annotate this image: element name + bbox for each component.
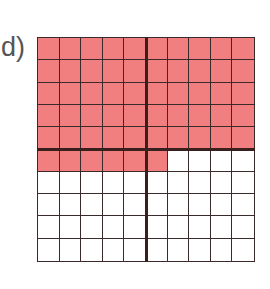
shaded-cell xyxy=(124,149,146,171)
part-label: d) xyxy=(1,32,25,63)
empty-cell xyxy=(146,172,168,194)
empty-cell xyxy=(211,239,233,261)
empty-cell xyxy=(211,149,233,171)
shaded-cell xyxy=(168,83,190,105)
empty-cell xyxy=(189,194,211,216)
shaded-cell xyxy=(232,105,254,127)
empty-cell xyxy=(146,239,168,261)
shaded-cell xyxy=(81,38,103,60)
shaded-cell xyxy=(189,105,211,127)
shaded-cell xyxy=(168,38,190,60)
empty-cell xyxy=(81,239,103,261)
shaded-cell xyxy=(211,105,233,127)
shaded-cell xyxy=(60,60,82,82)
empty-cell xyxy=(124,216,146,238)
empty-cell xyxy=(60,216,82,238)
shaded-cell xyxy=(232,127,254,149)
empty-cell xyxy=(124,239,146,261)
shaded-cell xyxy=(189,60,211,82)
empty-cell xyxy=(168,216,190,238)
empty-cell xyxy=(189,239,211,261)
shaded-cell xyxy=(211,127,233,149)
shaded-cell xyxy=(103,83,125,105)
empty-cell xyxy=(124,194,146,216)
shaded-cell xyxy=(168,105,190,127)
shaded-cell xyxy=(38,38,60,60)
shaded-cell xyxy=(81,60,103,82)
empty-cell xyxy=(232,239,254,261)
shaded-cell xyxy=(38,83,60,105)
horizontal-divider xyxy=(37,148,255,151)
empty-cell xyxy=(60,172,82,194)
empty-cell xyxy=(81,216,103,238)
shaded-cell xyxy=(124,105,146,127)
shaded-cell xyxy=(60,105,82,127)
empty-cell xyxy=(60,239,82,261)
shaded-cell xyxy=(124,60,146,82)
empty-cell xyxy=(38,172,60,194)
shaded-cell xyxy=(81,83,103,105)
empty-cell xyxy=(124,172,146,194)
shaded-cell xyxy=(124,127,146,149)
shaded-cell xyxy=(81,105,103,127)
empty-cell xyxy=(103,239,125,261)
shaded-cell xyxy=(232,83,254,105)
shaded-cell xyxy=(146,127,168,149)
shaded-cell xyxy=(38,127,60,149)
shaded-cell xyxy=(81,127,103,149)
shaded-cell xyxy=(103,149,125,171)
shaded-cell xyxy=(189,127,211,149)
empty-cell xyxy=(146,194,168,216)
shaded-cell xyxy=(38,105,60,127)
empty-cell xyxy=(232,172,254,194)
empty-cell xyxy=(103,194,125,216)
empty-cell xyxy=(38,194,60,216)
shaded-cell xyxy=(60,127,82,149)
empty-cell xyxy=(168,194,190,216)
shaded-cell xyxy=(146,60,168,82)
empty-cell xyxy=(103,172,125,194)
shaded-cell xyxy=(146,38,168,60)
empty-cell xyxy=(211,194,233,216)
shaded-cell xyxy=(103,60,125,82)
shaded-cell xyxy=(189,83,211,105)
empty-cell xyxy=(189,216,211,238)
empty-cell xyxy=(146,216,168,238)
empty-cell xyxy=(168,239,190,261)
shaded-cell xyxy=(103,127,125,149)
shaded-cell xyxy=(103,105,125,127)
shaded-cell xyxy=(189,38,211,60)
shaded-cell xyxy=(60,149,82,171)
empty-cell xyxy=(38,239,60,261)
empty-cell xyxy=(38,216,60,238)
empty-cell xyxy=(81,172,103,194)
empty-cell xyxy=(168,149,190,171)
empty-cell xyxy=(168,172,190,194)
shaded-cell xyxy=(38,60,60,82)
empty-cell xyxy=(211,172,233,194)
shaded-cell xyxy=(103,38,125,60)
empty-cell xyxy=(103,216,125,238)
empty-cell xyxy=(189,149,211,171)
shaded-cell xyxy=(211,60,233,82)
empty-cell xyxy=(60,194,82,216)
shaded-cell xyxy=(146,83,168,105)
shaded-cell xyxy=(60,83,82,105)
shaded-cell xyxy=(211,83,233,105)
shaded-cell xyxy=(124,83,146,105)
shaded-cell xyxy=(146,105,168,127)
shaded-cell xyxy=(168,127,190,149)
shaded-cell xyxy=(146,149,168,171)
empty-cell xyxy=(232,149,254,171)
empty-cell xyxy=(232,194,254,216)
shaded-cell xyxy=(232,60,254,82)
empty-cell xyxy=(189,172,211,194)
shaded-cell xyxy=(211,38,233,60)
shaded-cell xyxy=(81,149,103,171)
shaded-cell xyxy=(232,38,254,60)
shaded-cell xyxy=(38,149,60,171)
shaded-cell xyxy=(60,38,82,60)
shaded-cell xyxy=(124,38,146,60)
empty-cell xyxy=(211,216,233,238)
empty-cell xyxy=(81,194,103,216)
